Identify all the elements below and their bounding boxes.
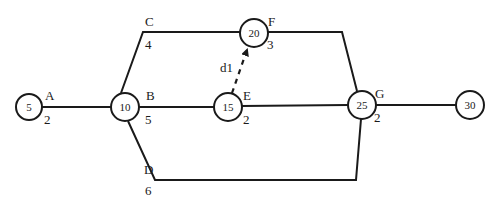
- node-20: 20: [240, 19, 268, 47]
- edge-f: [268, 32, 357, 91]
- node-label: 25: [357, 99, 369, 111]
- activity-e-duration: 2: [243, 112, 250, 127]
- activity-c-duration: 4: [145, 37, 152, 52]
- node-5: 5: [16, 94, 42, 120]
- activity-g-duration: 2: [374, 110, 381, 125]
- dummy-d1-arrow: [232, 50, 247, 93]
- activity-c-name: C: [145, 14, 154, 29]
- activity-a-duration: 2: [44, 112, 51, 127]
- activity-d-name: D: [144, 162, 153, 177]
- node-label: 30: [465, 99, 477, 111]
- activity-g-name: G: [375, 86, 384, 101]
- node-30: 30: [456, 91, 484, 119]
- edge-d: [128, 119, 361, 180]
- activity-e-name: E: [243, 88, 251, 103]
- activity-a-name: A: [45, 88, 55, 103]
- activity-b-duration: 5: [145, 112, 152, 127]
- node-label: 10: [120, 101, 132, 113]
- node-15: 15: [214, 93, 242, 121]
- activity-f-name: F: [268, 14, 275, 29]
- node-25: 25: [348, 91, 376, 119]
- node-label: 5: [26, 101, 32, 113]
- activity-b-name: B: [146, 88, 155, 103]
- node-label: 20: [249, 27, 261, 39]
- activity-f-duration: 3: [267, 37, 274, 52]
- edge-e: [242, 105, 348, 106]
- node-label: 15: [223, 101, 235, 113]
- activity-d-duration: 6: [145, 183, 152, 198]
- network-diagram: 5 10 15 20 25 30 A 2 B 5 C 4 D 6 E 2 F 3…: [0, 0, 495, 204]
- dummy-d1-label: d1: [220, 60, 233, 75]
- node-10: 10: [111, 93, 139, 121]
